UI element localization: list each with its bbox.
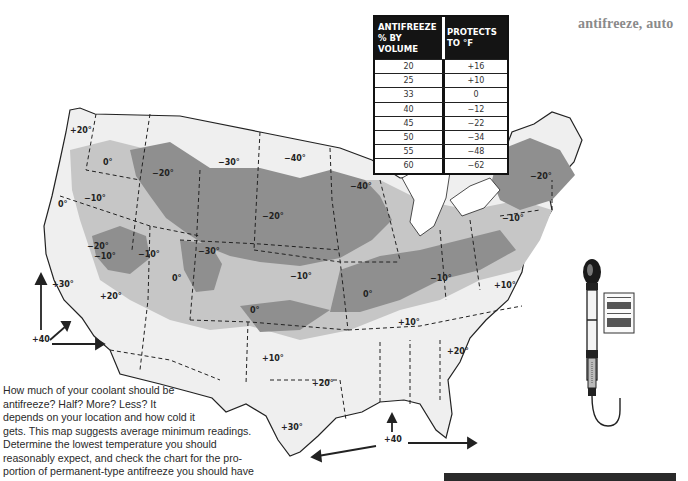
table-row: 45−22 xyxy=(375,116,507,130)
caption-line: antifreeze? Half? More? Less? It xyxy=(3,398,303,412)
temperature-label: −40° xyxy=(350,182,372,191)
temperature-label: −30° xyxy=(198,247,220,256)
cell-protects: −12 xyxy=(445,103,507,116)
temperature-label: −30° xyxy=(218,158,240,167)
cell-protects: 0 xyxy=(445,88,507,101)
col-header-percent-line2: % BY VOLUME xyxy=(378,33,418,54)
cell-protects: −62 xyxy=(445,159,507,172)
temperature-label: −40° xyxy=(284,154,306,163)
caption-text: How much of your coolant should be antif… xyxy=(3,384,303,479)
col-header-percent-line1: ANTIFREEZE xyxy=(378,22,437,32)
temperature-label: +40 xyxy=(32,335,50,344)
table-row: 40−12 xyxy=(375,102,507,116)
temperature-label: −20° xyxy=(87,242,109,251)
cell-percent: 25 xyxy=(375,74,445,87)
cell-percent: 60 xyxy=(375,159,445,172)
table-header: ANTIFREEZE% BY VOLUME PROTECTS TO °F xyxy=(375,17,507,59)
caption-line: Determine the lowest temperature you sho… xyxy=(3,438,303,452)
temperature-label: 0° xyxy=(103,158,113,167)
table-row: 25+10 xyxy=(375,73,507,87)
temperature-label: +20° xyxy=(100,292,122,301)
temperature-label: −10° xyxy=(138,250,160,259)
cell-percent: 40 xyxy=(375,103,445,116)
temperature-label: −10° xyxy=(502,214,524,223)
temperature-label: +30° xyxy=(52,280,74,289)
temperature-label: +10° xyxy=(398,318,420,327)
caption-line: depends on your location and how cold it xyxy=(3,411,303,425)
temperature-label: +20° xyxy=(312,379,334,388)
caption-line: reasonably expect, and check the chart f… xyxy=(3,452,303,466)
cell-protects: −22 xyxy=(445,117,507,130)
hydrometer-illustration xyxy=(574,250,644,450)
cell-percent: 20 xyxy=(375,60,445,73)
antifreeze-table: ANTIFREEZE% BY VOLUME PROTECTS TO °F 20+… xyxy=(373,15,509,175)
col-header-protects: PROTECTS TO °F xyxy=(445,17,507,59)
temperature-label: +10° xyxy=(262,354,284,363)
cell-percent: 50 xyxy=(375,131,445,144)
caption-line: How much of your coolant should be xyxy=(3,384,303,398)
temperature-label: 0° xyxy=(363,290,373,299)
temperature-label: +20° xyxy=(70,126,92,135)
table-row: 60−62 xyxy=(375,158,507,172)
temperature-label: 0° xyxy=(58,200,68,209)
table-row: 330 xyxy=(375,87,507,101)
temperature-label: −10° xyxy=(84,194,106,203)
temperature-label: −10° xyxy=(290,272,312,281)
temperature-label: −10° xyxy=(94,252,116,261)
temperature-label: +40 xyxy=(384,435,402,444)
cell-percent: 45 xyxy=(375,117,445,130)
caption-line: gets. This map suggests average minimum … xyxy=(3,425,303,439)
cell-percent: 33 xyxy=(375,88,445,101)
table-row: 20+16 xyxy=(375,59,507,73)
table-row: 55−48 xyxy=(375,144,507,158)
temperature-label: 0° xyxy=(250,306,260,315)
photo-edge-strip xyxy=(444,473,676,481)
temperature-label: +20° xyxy=(447,347,469,356)
temperature-label: −20° xyxy=(530,172,552,181)
temperature-label: +10° xyxy=(494,281,516,290)
col-header-percent: ANTIFREEZE% BY VOLUME xyxy=(375,17,445,59)
temperature-label: −10° xyxy=(430,274,452,283)
index-header-word: antifreeze, auto xyxy=(578,16,673,32)
temperature-label: −20° xyxy=(152,169,174,178)
cell-protects: +16 xyxy=(445,60,507,73)
cell-percent: 55 xyxy=(375,145,445,158)
caption-line: portion of permanent-type antifreeze you… xyxy=(3,465,303,479)
cell-protects: −48 xyxy=(445,145,507,158)
temperature-label: 0° xyxy=(172,274,182,283)
temperature-label: −20° xyxy=(262,212,284,221)
table-row: 50−34 xyxy=(375,130,507,144)
cell-protects: +10 xyxy=(445,74,507,87)
cell-protects: −34 xyxy=(445,131,507,144)
